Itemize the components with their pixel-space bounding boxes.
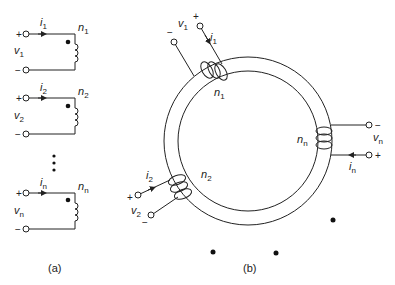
terminal-plus[interactable]	[135, 192, 141, 198]
voltage-label: vn	[373, 131, 383, 146]
turns-label: n1	[78, 21, 89, 36]
minus-sign: −	[375, 120, 381, 131]
terminal-minus[interactable]	[148, 212, 154, 218]
voltage-label: v1	[14, 44, 25, 59]
terminal-minus[interactable]	[23, 226, 29, 232]
polarity-dot-icon	[66, 198, 71, 203]
terminal-plus[interactable]	[366, 152, 372, 158]
current-label: in	[349, 160, 356, 175]
terminal-plus[interactable]	[23, 190, 29, 196]
turns-label: n2	[201, 168, 212, 183]
polarity-dot-icon	[66, 40, 71, 45]
winding-b2: + − i2 v2 n2	[127, 168, 212, 228]
coil-icon	[75, 44, 78, 62]
terminal-plus[interactable]	[23, 31, 29, 37]
voltage-label: v2	[131, 204, 142, 219]
plus-sign: +	[127, 192, 133, 203]
ellipsis	[52, 154, 55, 171]
terminal-plus[interactable]	[23, 95, 29, 101]
plus-sign: +	[16, 93, 22, 104]
voltage-label: v2	[14, 109, 25, 124]
current-label: i1	[210, 31, 217, 46]
polarity-dot-icon	[66, 104, 71, 109]
plus-sign: +	[16, 188, 22, 199]
turns-label: nn	[78, 180, 89, 195]
turns-label: n2	[78, 85, 89, 100]
winding-bn: − + vn in nn	[297, 120, 383, 175]
plus-sign: +	[16, 29, 22, 40]
coupled-windings-diagram: + i1 n1 v1 − + i2 n2 v2 −	[0, 0, 395, 285]
terminal-minus[interactable]	[171, 39, 177, 45]
minus-sign: −	[15, 224, 21, 235]
terminal-minus[interactable]	[23, 67, 29, 73]
winding-b1: + − v1 i1 n1	[167, 11, 230, 101]
plus-sign: +	[375, 150, 381, 161]
turns-label: nn	[297, 133, 308, 148]
minus-sign: −	[15, 65, 21, 76]
current-label: i2	[146, 169, 153, 184]
current-arrow-icon	[148, 188, 153, 190]
minus-sign: −	[15, 129, 21, 140]
terminal-minus[interactable]	[366, 122, 372, 128]
current-label: in	[40, 176, 47, 191]
current-label: i2	[40, 81, 47, 96]
current-label: i1	[40, 16, 47, 31]
minus-sign: −	[142, 217, 148, 228]
coil-icon	[75, 108, 78, 126]
caption-b: (b)	[243, 262, 256, 274]
plus-sign: +	[193, 11, 199, 22]
voltage-label: v1	[178, 17, 189, 32]
winding-an: + in nn vn −	[14, 176, 89, 235]
coil-icon	[75, 203, 78, 221]
winding-a2: + i2 n2 v2 −	[14, 81, 89, 140]
minus-sign: −	[167, 27, 173, 38]
caption-a: (a)	[48, 262, 61, 274]
terminal-plus[interactable]	[197, 23, 203, 29]
winding-a1: + i1 n1 v1 −	[14, 16, 89, 76]
terminal-minus[interactable]	[23, 131, 29, 137]
current-arrow-icon	[205, 35, 209, 42]
voltage-label: vn	[14, 204, 24, 219]
turns-label: n1	[214, 86, 225, 101]
